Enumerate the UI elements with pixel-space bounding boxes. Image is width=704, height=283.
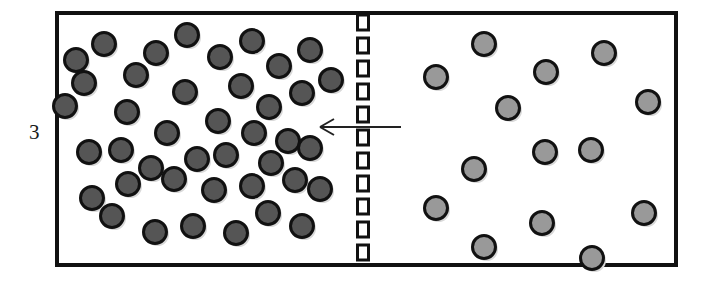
particle: [473, 236, 496, 259]
particle: [425, 66, 448, 89]
membrane-dash: [358, 84, 369, 99]
particle: [284, 169, 307, 192]
particle: [156, 122, 179, 145]
particle: [277, 130, 300, 153]
particle: [268, 55, 291, 78]
particle: [125, 64, 148, 87]
membrane-dash: [358, 38, 369, 53]
diffusion-diagram: [0, 0, 704, 283]
membrane-dash: [358, 199, 369, 214]
particle: [54, 95, 77, 118]
particle: [209, 46, 232, 69]
membrane-dash: [358, 222, 369, 237]
particle: [320, 69, 343, 92]
particle: [633, 202, 656, 225]
membrane-dash: [358, 176, 369, 191]
particle: [110, 139, 133, 162]
particle: [73, 72, 96, 95]
particle: [309, 178, 332, 201]
particle: [531, 212, 554, 235]
particle: [257, 202, 280, 225]
figure-canvas: 3: [0, 0, 704, 283]
particle: [425, 197, 448, 220]
particle: [203, 179, 226, 202]
particle: [299, 39, 322, 62]
particle: [78, 141, 101, 164]
particle: [215, 144, 238, 167]
particle: [101, 205, 124, 228]
particle: [93, 33, 116, 56]
particle: [144, 221, 167, 244]
particle: [174, 81, 197, 104]
particle: [497, 97, 520, 120]
membrane-dash: [358, 107, 369, 122]
particle: [230, 75, 253, 98]
particle: [81, 187, 104, 210]
semi-permeable-membrane: [358, 15, 369, 260]
particle: [463, 158, 486, 181]
particle: [140, 157, 163, 180]
particle: [243, 122, 266, 145]
particle: [241, 30, 264, 53]
particle: [182, 215, 205, 238]
particle: [117, 173, 140, 196]
particle: [241, 175, 264, 198]
particle: [637, 91, 660, 114]
particle: [581, 247, 604, 270]
membrane-dash: [358, 61, 369, 76]
membrane-dash: [358, 245, 369, 260]
membrane-dash: [358, 153, 369, 168]
particle: [145, 42, 168, 65]
particle: [593, 42, 616, 65]
particle: [116, 101, 139, 124]
particle: [258, 96, 281, 119]
particle: [207, 110, 230, 133]
particle: [176, 24, 199, 47]
particle: [534, 141, 557, 164]
particle: [65, 49, 88, 72]
particle: [473, 33, 496, 56]
particle: [291, 82, 314, 105]
particle: [580, 139, 603, 162]
particle: [291, 215, 314, 238]
membrane-dash: [358, 15, 369, 30]
particle: [260, 152, 283, 175]
particle: [299, 137, 322, 160]
particle: [163, 168, 186, 191]
particle: [186, 148, 209, 171]
particle: [225, 222, 248, 245]
particle: [535, 61, 558, 84]
membrane-dash: [358, 130, 369, 145]
